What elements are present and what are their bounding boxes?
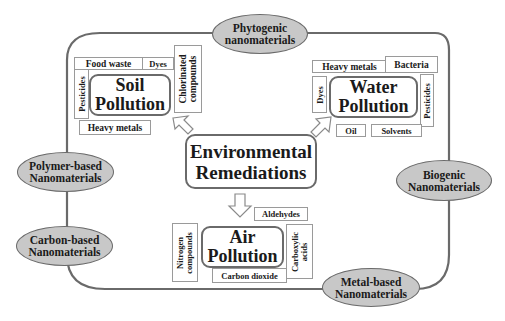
soil-pollution-node: SoilPollution	[89, 74, 171, 116]
soil-tag-chlorinated-compounds: Chlorinatedcompounds	[174, 45, 202, 113]
water-tag-bacteria: Bacteria	[385, 56, 438, 73]
environmental-remediations-node: EnvironmentalRemediations	[185, 134, 317, 189]
air-pollution-node: AirPollution	[201, 226, 284, 268]
soil-tag-dyes: Dyes	[142, 57, 174, 70]
air-tag-carboxylic-acids: Carboxylicacids	[286, 224, 313, 279]
water-tag-solvents: Solvents	[371, 124, 422, 137]
metal-based-nanomaterials-node: Metal-basedNanomaterials	[322, 268, 420, 307]
water-tag-pesticides: Pesticides	[420, 74, 434, 127]
arrow-to-water-icon	[311, 117, 331, 137]
polymer-based-nanomaterials-node: Polymer-basedNanomaterials	[17, 152, 114, 192]
phytogenic-nanomaterials-node: Phytogenicnanomaterials	[212, 14, 308, 54]
carbon-based-nanomaterials-node: Carbon-basedNanomaterials	[16, 226, 113, 266]
water-tag-dyes: Dyes	[312, 76, 327, 113]
arrow-to-soil-icon	[173, 116, 193, 134]
biogenic-nanomaterials-node: BiogenicNanomaterials	[396, 160, 492, 201]
air-tag-carbon-dioxide: Carbon dioxide	[212, 268, 287, 283]
soil-tag-heavy-metals: Heavy metals	[79, 120, 151, 135]
water-tag-oil: Oil	[336, 124, 366, 137]
soil-tag-pesticides: Pesticides	[74, 69, 89, 119]
air-tag-nitrogen-compounds: Nitrogencompounds	[172, 223, 198, 282]
arrow-down-to-air-icon	[229, 194, 251, 217]
air-tag-aldehydes: Aldehydes	[254, 207, 308, 221]
water-tag-heavy-metals: Heavy metals	[312, 60, 387, 73]
water-pollution-node: WaterPollution	[329, 76, 418, 118]
